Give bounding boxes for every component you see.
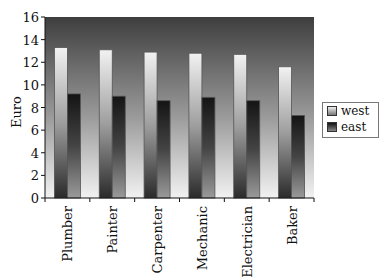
- y-tick-label: 12: [22, 55, 39, 70]
- x-tick-label: Baker: [285, 205, 300, 245]
- y-tick-label: 2: [31, 168, 39, 183]
- y-tick-label: 14: [22, 33, 39, 48]
- bar-west: [99, 50, 112, 198]
- bar-chart: PlumberPainterCarpenterMechanicElectrici…: [0, 0, 379, 278]
- legend-label-west: west: [341, 104, 369, 118]
- bar-east: [247, 101, 260, 198]
- y-tick-label: 16: [22, 10, 39, 25]
- legend-label-east: east: [341, 120, 366, 134]
- y-tick-label: 4: [31, 146, 39, 161]
- bar-east: [67, 94, 80, 198]
- x-tick-label: Mechanic: [195, 206, 210, 270]
- chart-plot: PlumberPainterCarpenterMechanicElectrici…: [0, 0, 379, 278]
- bar-east: [202, 97, 215, 198]
- bar-west: [144, 52, 157, 198]
- legend-item-west: west: [323, 103, 378, 119]
- bar-west: [54, 48, 67, 198]
- x-tick-label: Carpenter: [150, 205, 165, 273]
- legend-swatch-west: [327, 106, 337, 116]
- bar-east: [292, 115, 305, 198]
- bar-east: [112, 96, 125, 198]
- bar-west: [279, 67, 292, 198]
- plot-background: [45, 17, 314, 198]
- legend: west east: [322, 102, 379, 138]
- y-tick-label: 0: [31, 191, 39, 206]
- legend-swatch-east: [327, 122, 337, 132]
- x-tick-label: Electrician: [240, 205, 255, 277]
- x-tick-label: Plumber: [60, 205, 75, 262]
- y-tick-label: 10: [22, 78, 39, 93]
- legend-item-east: east: [323, 119, 378, 135]
- bar-west: [189, 53, 202, 198]
- bar-east: [157, 101, 170, 198]
- bar-west: [234, 54, 247, 198]
- x-tick-label: Painter: [105, 205, 120, 253]
- y-axis-label: Euro: [2, 98, 32, 128]
- plot-area: PlumberPainterCarpenterMechanicElectrici…: [22, 10, 314, 278]
